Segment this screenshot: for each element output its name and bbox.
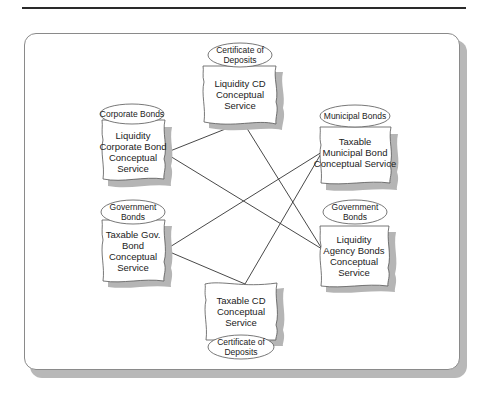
category-tag-line: Government <box>332 202 379 212</box>
category-tag-line: Municipal Bonds <box>324 111 386 121</box>
node-label-line: Conceptual <box>109 251 157 262</box>
node-label-line: Taxable <box>339 136 372 147</box>
node-label-line: Service <box>117 163 149 174</box>
edge-cd-to-agency <box>243 122 322 249</box>
category-tag-line: Certificate of <box>217 337 265 347</box>
node-label-line: Municipal Bond <box>323 147 388 158</box>
node-label-line: Conceptual <box>217 306 265 317</box>
node-liquidity-corporate-bond[interactable]: Liquidity Corporate Bond Conceptual Serv… <box>99 104 172 187</box>
connectors <box>165 122 322 284</box>
node-label-line: Conceptual <box>330 256 378 267</box>
category-tag-line: Certificate of <box>216 45 264 55</box>
category-tag-line: Bonds <box>121 212 145 222</box>
node-label-line: Liquidity <box>337 234 372 245</box>
node-label-line: Bond <box>122 240 144 251</box>
node-label-line: Liquidity <box>116 130 151 141</box>
category-tag-line: Deposits <box>223 55 256 65</box>
node-label-line: Agency Bonds <box>323 245 385 256</box>
node-label-line: Taxable Gov. <box>106 229 161 240</box>
node-taxable-cd[interactable]: Taxable CD Conceptual Service Certificat… <box>205 283 284 359</box>
category-tag-line: Bonds <box>343 212 367 222</box>
edge-gov-to-taxable-cd <box>165 250 245 284</box>
category-tag-line: Deposits <box>224 347 257 357</box>
node-label-line: Corporate Bond <box>99 141 166 152</box>
category-tag-line: Government <box>110 202 157 212</box>
edge-gov-to-municipal <box>165 152 322 250</box>
category-tag-line: Corporate Bonds <box>100 109 164 119</box>
node-label-line: Conceptual <box>216 89 264 100</box>
node-label-line: Conceptual <box>109 152 157 163</box>
edge-taxable-cd-to-municipal <box>245 152 322 284</box>
node-label-line: Liquidity CD <box>214 78 265 89</box>
node-liquidity-cd[interactable]: Liquidity CD Conceptual Service Certific… <box>203 43 284 130</box>
node-label-line: Service <box>338 267 370 278</box>
node-label-line: Conceptual Service <box>314 158 396 169</box>
node-taxable-gov-bond[interactable]: Taxable Gov. Bond Conceptual Service Gov… <box>101 200 172 288</box>
node-liquidity-agency-bonds[interactable]: Liquidity Agency Bonds Conceptual Servic… <box>320 200 396 293</box>
node-label-line: Service <box>117 262 149 273</box>
node-label-line: Service <box>224 100 256 111</box>
node-taxable-municipal-bond[interactable]: Taxable Municipal Bond Conceptual Servic… <box>314 105 399 191</box>
diagram-canvas: Liquidity CD Conceptual Service Certific… <box>0 0 490 395</box>
node-label-line: Taxable CD <box>216 295 265 306</box>
node-label-line: Service <box>225 317 257 328</box>
